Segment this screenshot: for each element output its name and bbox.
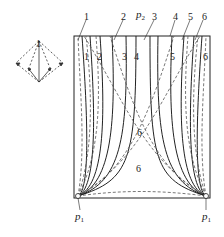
flow-diagram: 1 — [0, 0, 224, 237]
top-label-6: 6 — [202, 11, 207, 22]
solid-streamlines-right — [150, 36, 206, 196]
p2-label: p2 — [135, 8, 146, 22]
vector-label: 1 — [36, 38, 41, 49]
inner-label-4: 4 — [134, 51, 139, 62]
top-label-3: 3 — [152, 11, 157, 22]
center-label-upper: 6 — [137, 127, 142, 138]
inner-label-2: 2 — [97, 51, 102, 62]
top-label-2: 2 — [121, 11, 126, 22]
top-label-1: 1 — [84, 11, 89, 22]
top-label-5: 5 — [188, 11, 193, 22]
inner-label-3: 3 — [122, 51, 127, 62]
center-label-lower: 6 — [136, 163, 141, 174]
right-source-point — [204, 194, 209, 199]
p1-right-label: p1 — [201, 210, 212, 224]
inner-label-1: 1 — [84, 51, 89, 62]
domain-rectangle — [74, 36, 210, 198]
p1-left-label: p1 — [74, 210, 85, 224]
inner-label-6: 6 — [203, 51, 208, 62]
inner-label-5: 5 — [170, 51, 175, 62]
left-source-point — [76, 194, 81, 199]
top-label-4: 4 — [173, 11, 178, 22]
